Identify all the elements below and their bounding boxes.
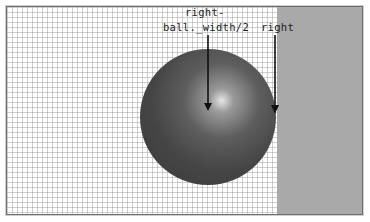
arrows: [0, 0, 370, 222]
center-arrow-icon: [204, 35, 212, 111]
right-arrow-icon: [271, 35, 279, 114]
